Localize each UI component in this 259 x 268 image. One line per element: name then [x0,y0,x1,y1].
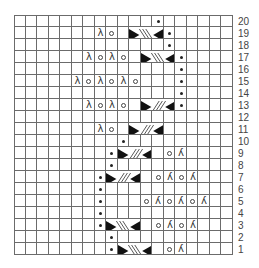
decrease-left-icon-glyph: λ [97,28,103,38]
chart-cell [60,231,72,243]
chart-cell [14,195,26,207]
decrease-right-icon: λ [175,195,187,207]
row-number-label: 2 [238,232,258,243]
decrease-right-icon: λ [175,243,187,255]
chart-cell [49,87,61,99]
chart-cell [164,111,176,123]
chart-cell [198,87,210,99]
chart-cell [26,75,38,87]
decrease-left-icon: λ [72,75,84,87]
chart-cell [83,63,95,75]
purl-dot-icon [175,63,187,75]
chart-cell [26,147,38,159]
yarn-over-icon-glyph [86,79,91,84]
chart-cell [26,171,38,183]
row-number-label: 19 [238,28,258,39]
chart-cell [14,27,26,39]
purl-dot-icon-glyph [180,68,183,71]
chart-cell [37,15,49,27]
row-number-label: 1 [238,244,258,255]
chart-cell [187,135,199,147]
purl-dot-icon-glyph [99,188,102,191]
chart-cell [187,243,199,255]
chart-cell [187,87,199,99]
chart-cell [26,39,38,51]
chart-cell [60,51,72,63]
chart-cell [187,183,199,195]
row-number-label: 10 [238,136,258,147]
chart-cell [221,99,233,111]
chart-cell [210,15,222,27]
yarn-over-icon-glyph [121,55,126,60]
chart-cell [49,63,61,75]
chart-cell [49,147,61,159]
purl-dot-icon [118,135,130,147]
chart-cell [141,231,153,243]
chart-cell [26,135,38,147]
yarn-over-icon-glyph [179,223,184,228]
chart-cell [187,147,199,159]
purl-dot-icon [175,87,187,99]
row-number-label: 13 [238,100,258,111]
chart-cell [95,135,107,147]
yarn-over-icon [129,75,141,87]
chart-cell [198,51,210,63]
chart-cell [95,63,107,75]
chart-cell [37,87,49,99]
chart-cell [72,39,84,51]
chart-cell [49,219,61,231]
chart-cell [210,87,222,99]
chart-cell [129,39,141,51]
chart-cell [198,123,210,135]
decrease-left-icon-glyph: λ [97,124,103,134]
row-number-label: 9 [238,148,258,159]
chart-cell [83,15,95,27]
decrease-right-icon: λ [164,171,176,183]
chart-cell [26,87,38,99]
chart-cell [26,15,38,27]
decrease-left-icon-glyph: λ [121,76,127,86]
chart-cell [83,195,95,207]
chart-cell [175,183,187,195]
chart-cell [83,135,95,147]
chart-cell [187,15,199,27]
purl-dot-icon-glyph [157,20,160,23]
chart-title-cutoff [16,0,20,3]
chart-cell [72,159,84,171]
purl-dot-icon [95,171,107,183]
yarn-over-icon-glyph [109,127,114,132]
cable-cross-icon [129,27,164,39]
chart-cell [118,111,130,123]
purl-dot-icon-glyph [99,224,102,227]
chart-cell [49,171,61,183]
decrease-right-icon-glyph: λ [178,244,184,254]
chart-cell [83,243,95,255]
chart-cell [83,123,95,135]
decrease-right-icon: λ [187,219,199,231]
chart-cell [221,243,233,255]
chart-cell [198,111,210,123]
chart-cell [37,219,49,231]
chart-cell [14,15,26,27]
chart-cell [26,159,38,171]
decrease-left-icon-glyph: λ [74,76,80,86]
chart-cell [37,195,49,207]
chart-cell [95,39,107,51]
chart-cell [210,75,222,87]
chart-cell [210,27,222,39]
yarn-over-icon [152,219,164,231]
chart-cell [37,171,49,183]
chart-cell [164,75,176,87]
purl-dot-icon-glyph [180,104,183,107]
chart-cell [106,63,118,75]
chart-cell [60,159,72,171]
purl-dot-icon [106,159,118,171]
purl-dot-icon-glyph [99,212,102,215]
chart-cell [14,111,26,123]
yarn-over-icon [95,51,107,63]
chart-cell [210,123,222,135]
cable-cross-icon [118,147,153,159]
yarn-over-icon [83,75,95,87]
decrease-left-icon-glyph: λ [97,76,103,86]
chart-cell [187,159,199,171]
